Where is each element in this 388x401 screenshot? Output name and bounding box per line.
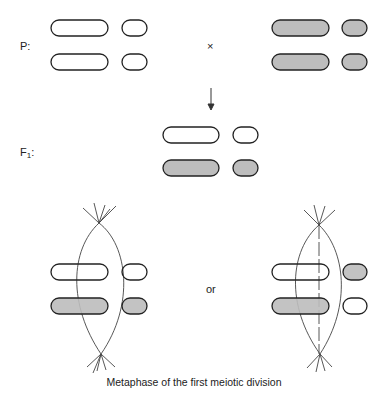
spindle [295,205,341,372]
long-chromosome-shaded [163,160,219,176]
short-chromosome-unshaded [122,54,147,70]
metaphase-option-2 [272,205,367,372]
short-chromosome-shaded [233,160,258,176]
long-chromosome-shaded [272,54,329,70]
parent-left-chromosomes [51,20,147,70]
down-arrow-icon [208,88,214,110]
long-chromosome-unshaded [163,127,219,143]
long-chromosome-shaded [272,20,329,36]
long-chromosome-unshaded [51,20,108,36]
long-chromosome-unshaded [272,264,329,280]
short-chromosome-unshaded [233,127,258,143]
short-chromosome-unshaded [122,20,147,36]
short-chromosome-shaded [342,54,367,70]
short-chromosome-unshaded [343,298,367,314]
f1-chromosomes [163,127,258,176]
short-chromosome-shaded [122,298,147,314]
long-chromosome-shaded [51,298,108,314]
spindle [77,203,124,373]
genetics-diagram [0,0,388,401]
figure-caption: Metaphase of the first meiotic division [0,376,388,388]
metaphase-option-1 [51,203,147,373]
short-chromosome-shaded [343,264,367,280]
short-chromosome-unshaded [122,264,147,280]
long-chromosome-unshaded [51,54,108,70]
long-chromosome-unshaded [51,264,108,280]
short-chromosome-shaded [342,20,367,36]
long-chromosome-shaded [272,298,329,314]
parent-right-chromosomes [272,20,367,70]
